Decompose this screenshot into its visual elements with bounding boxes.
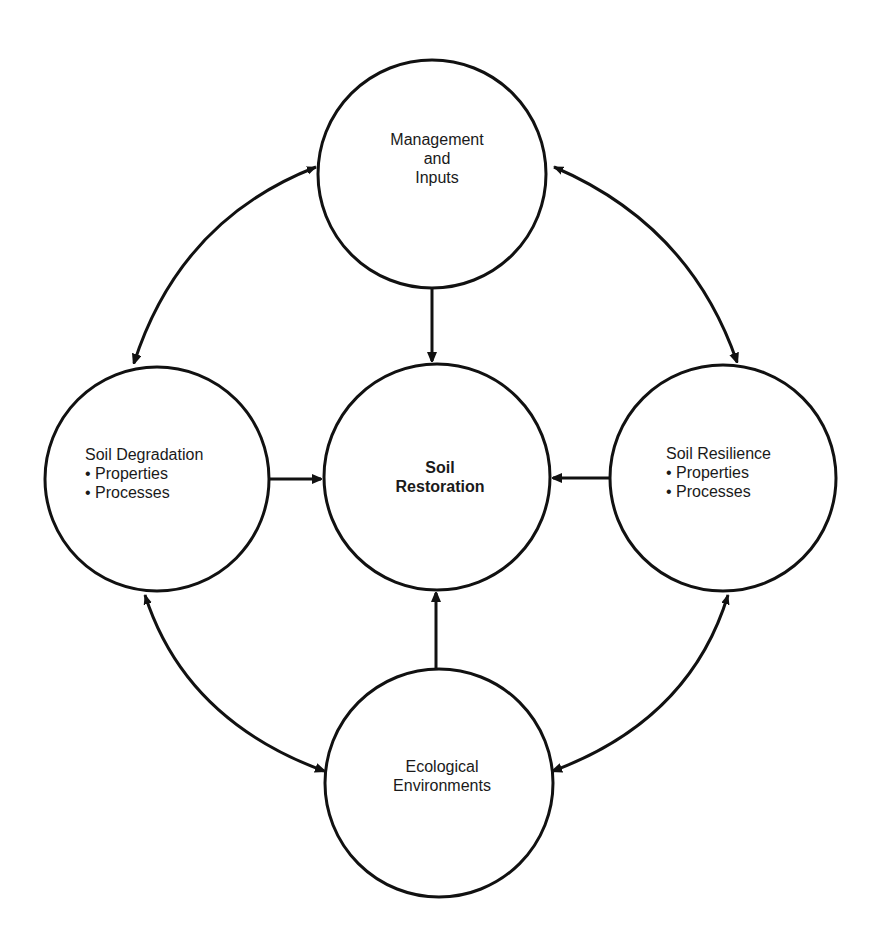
label-line: Restoration [396,477,485,496]
label-line: Inputs [390,168,483,187]
label-line: Soil [396,458,485,477]
label-line: • Properties [666,463,771,482]
label-line: Management [390,130,483,149]
label-line: Soil Resilience [666,444,771,463]
label-line: and [390,149,483,168]
edge-resilience-ecological [553,595,728,771]
edge-management-resilience [554,167,737,362]
label-line: Ecological [393,757,491,776]
label-line: • Processes [85,483,203,502]
node-degradation-label: Soil Degradation • Properties • Processe… [85,445,203,502]
node-ecological-label: Ecological Environments [393,757,491,795]
label-line: Environments [393,776,491,795]
node-restoration-label: Soil Restoration [396,458,485,496]
label-line: • Processes [666,482,771,501]
edge-management-degradation [134,167,316,363]
edge-degradation-ecological [145,595,324,771]
label-line: • Properties [85,464,203,483]
label-line: Soil Degradation [85,445,203,464]
node-resilience-label: Soil Resilience • Properties • Processes [666,444,771,501]
node-management-label: Management and Inputs [390,130,483,187]
